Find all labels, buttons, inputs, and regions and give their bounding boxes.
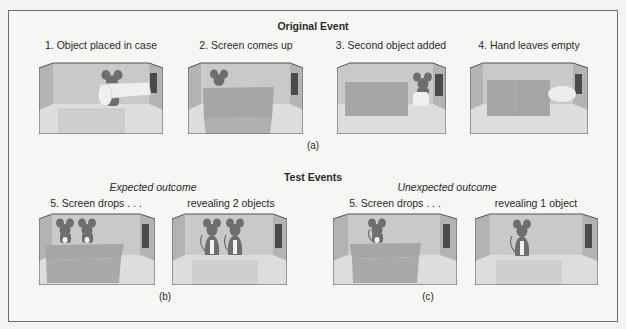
hand-icon — [548, 86, 576, 102]
step-2-label: 2. Screen comes up — [199, 39, 292, 51]
panel-revealing-one — [475, 213, 598, 285]
panel-object-placed — [39, 62, 163, 134]
step-4-label: 4. Hand leaves empty — [478, 39, 580, 51]
door-icon — [291, 73, 298, 95]
door-icon — [443, 224, 450, 248]
screen — [345, 82, 408, 116]
panel-screen-up — [188, 62, 303, 134]
sublabel-b: (b) — [159, 291, 171, 302]
screen — [487, 80, 550, 116]
test-events-title: Test Events — [284, 171, 342, 183]
panel-expected-screen-drops — [39, 213, 155, 285]
panel-hand-leaves — [470, 62, 588, 134]
step-1-label: 1. Object placed in case — [45, 39, 157, 51]
unexpected-reveal-label: revealing 1 object — [495, 197, 577, 209]
door-icon — [275, 224, 282, 248]
sublabel-c: (c) — [422, 291, 434, 302]
step-3-label: 3. Second object added — [336, 39, 446, 51]
screen — [45, 244, 124, 260]
door-icon — [150, 73, 157, 93]
unexpected-step-5-label: 5. Screen drops . . . — [349, 197, 441, 209]
screen — [203, 87, 274, 119]
door-icon — [435, 74, 443, 96]
door-icon — [142, 224, 149, 248]
panel-revealing-two — [172, 213, 287, 285]
expected-outcome-heading: Expected outcome — [110, 181, 197, 193]
hand-icon — [413, 92, 429, 106]
unexpected-outcome-heading: Unexpected outcome — [397, 181, 496, 193]
panel-second-object — [337, 62, 446, 134]
expected-step-5-label: 5. Screen drops . . . — [50, 197, 142, 209]
panel-unexpected-screen-drops — [333, 213, 457, 285]
original-event-title: Original Event — [277, 20, 348, 32]
door-icon — [585, 224, 592, 248]
screen — [350, 243, 421, 259]
sublabel-a: (a) — [307, 140, 319, 151]
expected-reveal-label: revealing 2 objects — [187, 197, 275, 209]
door-icon — [575, 74, 582, 94]
